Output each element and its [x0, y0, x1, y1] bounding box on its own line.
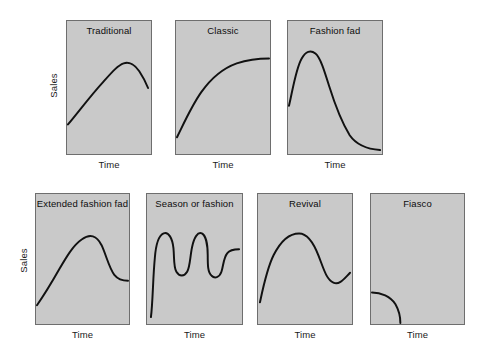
panel-classic: Classic	[175, 20, 271, 155]
panel-season-or-fashion: Season or fashion	[146, 193, 243, 325]
curve-fashion-fad	[289, 52, 380, 151]
chart-row-top: Sales Traditional Time Classic Time Fash…	[0, 0, 487, 180]
x-axis-label-classic: Time	[175, 159, 271, 170]
curve-traditional	[68, 63, 148, 125]
curve-fashion-fad-svg	[288, 21, 382, 154]
x-axis-label-fiasco: Time	[370, 329, 465, 340]
curve-extended-fashion-fad-svg	[36, 194, 129, 324]
x-axis-label-traditional: Time	[66, 159, 152, 170]
x-axis-label-fashion-fad: Time	[287, 159, 383, 170]
curve-classic	[177, 58, 269, 137]
curve-fiasco-svg	[371, 194, 464, 324]
curve-season-or-fashion	[151, 233, 239, 317]
curve-extended-fashion-fad	[37, 236, 128, 305]
panel-fiasco: Fiasco	[370, 193, 465, 325]
y-axis-label-bottom-row: Sales	[18, 241, 29, 281]
panel-revival: Revival	[257, 193, 353, 325]
x-axis-label-season-or-fashion: Time	[146, 329, 243, 340]
curve-fiasco	[372, 292, 400, 323]
chart-row-bottom: Sales Extended fashion fad Time Season o…	[0, 180, 487, 356]
curve-traditional-svg	[67, 21, 151, 154]
product-lifecycle-figure: Sales Traditional Time Classic Time Fash…	[0, 0, 487, 356]
curve-revival	[260, 233, 350, 302]
x-axis-label-extended-fashion-fad: Time	[35, 329, 130, 340]
panel-fashion-fad: Fashion fad	[287, 20, 383, 155]
curve-revival-svg	[258, 194, 352, 324]
x-axis-label-revival: Time	[257, 329, 353, 340]
panel-extended-fashion-fad: Extended fashion fad	[35, 193, 130, 325]
panel-traditional: Traditional	[66, 20, 152, 155]
curve-classic-svg	[176, 21, 270, 154]
curve-season-or-fashion-svg	[147, 194, 242, 324]
y-axis-label-top-row: Sales	[48, 66, 59, 106]
